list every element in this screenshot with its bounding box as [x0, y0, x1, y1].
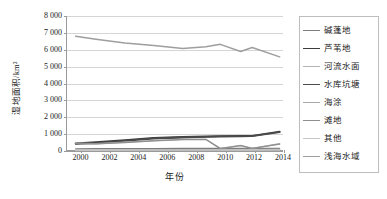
y-axis-label: 2 000	[22, 113, 62, 121]
x-axis-label: 2014	[266, 154, 300, 162]
y-axis-label: 7 000	[22, 29, 62, 37]
legend-label: 滩地	[324, 116, 342, 125]
legend-item[interactable]: 浅海水域	[303, 147, 375, 165]
plot-area	[66, 16, 283, 151]
legend-item[interactable]: 河流水面	[303, 57, 375, 75]
legend-swatch-icon	[303, 102, 320, 103]
legend-label: 芦苇地	[324, 44, 351, 53]
y-axis-tick	[64, 151, 67, 152]
legend-label: 海涂	[324, 98, 342, 107]
y-axis-title: 湿地面积/km²	[8, 32, 22, 144]
legend-label: 水库坑塘	[324, 80, 360, 89]
gridline	[67, 151, 283, 152]
y-axis-label: 5 000	[22, 63, 62, 71]
y-axis-label: 0	[22, 147, 62, 155]
x-axis-title: 年份	[66, 170, 283, 183]
legend-label: 浅海水域	[324, 152, 360, 161]
y-axis-label: 6 000	[22, 46, 62, 54]
series-line	[76, 36, 280, 57]
y-axis-label: 3 000	[22, 96, 62, 104]
legend-label: 碱蓬地	[324, 26, 351, 35]
legend-swatch-icon	[303, 84, 320, 85]
legend-swatch-icon	[303, 30, 320, 31]
y-axis-label: 4 000	[22, 80, 62, 88]
legend-item[interactable]: 滩地	[303, 111, 375, 129]
legend-label: 河流水面	[324, 62, 360, 71]
legend-item[interactable]: 芦苇地	[303, 39, 375, 57]
legend-swatch-icon	[303, 120, 320, 121]
legend-swatch-icon	[303, 138, 320, 139]
series-line	[76, 132, 280, 144]
chart-figure: 湿地面积/km² 8 0007 0006 0005 0004 0003 0002…	[0, 0, 387, 199]
legend-swatch-icon	[303, 66, 320, 67]
legend-item[interactable]: 海涂	[303, 93, 375, 111]
legend-swatch-icon	[303, 156, 320, 157]
legend-label: 其他	[324, 134, 342, 143]
y-axis-label: 8 000	[22, 12, 62, 20]
legend-item[interactable]: 水库坑塘	[303, 75, 375, 93]
legend-swatch-icon	[303, 48, 320, 49]
legend-item[interactable]: 碱蓬地	[303, 21, 375, 39]
series-lines	[67, 16, 284, 151]
legend: 碱蓬地芦苇地河流水面水库坑塘海涂滩地其他浅海水域	[299, 16, 379, 173]
y-axis-label: 1 000	[22, 130, 62, 138]
legend-item[interactable]: 其他	[303, 129, 375, 147]
